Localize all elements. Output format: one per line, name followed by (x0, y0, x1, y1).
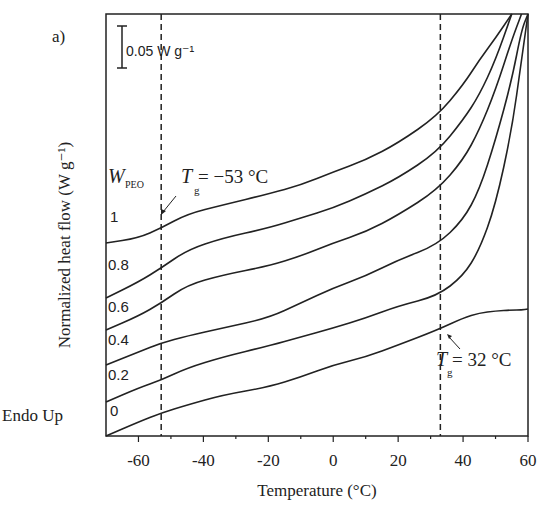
scale-bar-label: 0.05 W g⁻¹ (126, 43, 194, 59)
series-label: 0.2 (108, 366, 129, 383)
series-label: 1 (110, 208, 118, 225)
series-label: 0.6 (108, 298, 129, 315)
panel-label: a) (52, 27, 65, 46)
x-tick-label: -60 (127, 451, 150, 470)
x-tick-labels: -60-40-200204060 (127, 451, 536, 470)
y-axis-label: Normalized heat flow (W g⁻¹) (55, 142, 74, 348)
series-curve-0-2 (106, 14, 528, 402)
dsc-chart: -60-40-200204060 Temperature (°C) Normal… (0, 0, 555, 517)
series-label: 0 (110, 402, 118, 419)
x-axis-label: Temperature (°C) (257, 481, 376, 500)
svg-text:= −53 °C: = −53 °C (198, 166, 268, 187)
series-label: 0.8 (108, 256, 129, 273)
x-tick-label: -40 (192, 451, 215, 470)
scale-bar: 0.05 W g⁻¹ (117, 26, 194, 68)
x-tick-label: 40 (455, 451, 472, 470)
legend-title-sub: PEO (125, 179, 144, 190)
tg-annotation-blend: T g = 32 °C (436, 334, 512, 378)
x-tick-label: -20 (257, 451, 280, 470)
series-curves (106, 14, 528, 436)
series-curve-0-6 (106, 14, 522, 330)
svg-text:T: T (181, 165, 194, 187)
series-label: 0.4 (108, 331, 129, 348)
plot-frame (106, 14, 528, 436)
series-curve-0-4 (106, 14, 528, 365)
series-curve-0 (106, 309, 528, 436)
x-ticks (138, 436, 528, 442)
endo-up-label: Endo Up (2, 406, 63, 425)
x-tick-label: 20 (390, 451, 407, 470)
x-tick-label: 0 (329, 451, 338, 470)
svg-text:= 32 °C: = 32 °C (452, 349, 512, 370)
x-tick-label: 60 (520, 451, 537, 470)
